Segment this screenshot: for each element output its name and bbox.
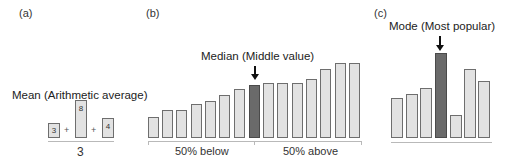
median-bar-highlight — [249, 85, 260, 138]
median-bar-10 — [277, 83, 288, 138]
mean-term-3: 4 — [102, 118, 114, 138]
median-bar-13 — [320, 69, 331, 138]
median-bar-11 — [292, 83, 303, 138]
mode-bar-6 — [464, 69, 476, 138]
median-bracket — [148, 141, 362, 142]
mode-bar-7 — [478, 81, 490, 138]
mode-bar-1 — [391, 98, 403, 138]
median-bar-7 — [234, 89, 245, 138]
mode-baseline — [391, 142, 492, 143]
mean-term-1: 3 — [48, 123, 60, 138]
mode-bar-5 — [450, 115, 462, 138]
panel-b-label: (b) — [146, 7, 159, 19]
median-bar-5 — [205, 101, 216, 138]
plus-operator-2: + — [91, 125, 96, 135]
median-caption-above: 50% above — [283, 145, 338, 157]
mode-bar-3 — [420, 88, 432, 138]
median-bar-3 — [176, 110, 187, 138]
median-bar-2 — [162, 110, 173, 138]
median-bar-12 — [306, 79, 317, 138]
fraction-line — [48, 141, 114, 142]
mode-bar-highlight — [435, 53, 447, 138]
mode-bar-2 — [406, 94, 418, 138]
median-bar-15 — [349, 63, 360, 138]
mode-title: Mode (Most popular) — [389, 20, 495, 32]
median-title: Median (Middle value) — [201, 50, 314, 62]
median-bar-9 — [263, 83, 274, 138]
median-caption-below: 50% below — [175, 145, 229, 157]
plus-operator-1: + — [64, 125, 69, 135]
panel-c-label: (c) — [374, 7, 387, 19]
median-bar-4 — [191, 104, 202, 138]
median-bar-1 — [148, 117, 159, 138]
mean-term-2: 8 — [75, 100, 87, 138]
panel-a-label: (a) — [19, 7, 32, 19]
median-bar-6 — [219, 95, 230, 138]
mean-divisor: 3 — [77, 145, 84, 159]
median-bar-14 — [335, 63, 346, 138]
